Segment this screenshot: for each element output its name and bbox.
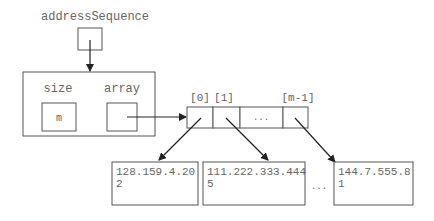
element-0-line1: 128.159.4.20 xyxy=(116,166,195,178)
index-label-last: [m-1] xyxy=(281,92,314,104)
array-cell-1 xyxy=(213,107,240,128)
variable-label: addressSequence xyxy=(41,10,149,24)
field-label-array: array xyxy=(104,82,140,96)
element-0-line2: 2 xyxy=(116,178,123,190)
element-arrow-0 xyxy=(159,118,201,160)
array-cell-0 xyxy=(187,107,213,128)
element-last-line2: 1 xyxy=(338,178,345,190)
size-value: m xyxy=(56,113,62,124)
elements-ellipsis: ... xyxy=(311,182,327,192)
index-label-1: [1] xyxy=(214,92,234,104)
element-1-line2: 5 xyxy=(207,178,214,190)
element-arrow-last xyxy=(295,118,335,162)
element-last-line1: 144.7.555.8 xyxy=(338,166,411,178)
index-label-0: [0] xyxy=(190,92,210,104)
memory-diagram: addressSequence size array m [0] [1] [m-… xyxy=(0,0,434,221)
array-ellipsis: ... xyxy=(253,113,269,123)
array-cell-last xyxy=(283,107,308,128)
field-label-size: size xyxy=(44,82,73,96)
element-1-line1: 111.222.333.444 xyxy=(207,166,306,178)
